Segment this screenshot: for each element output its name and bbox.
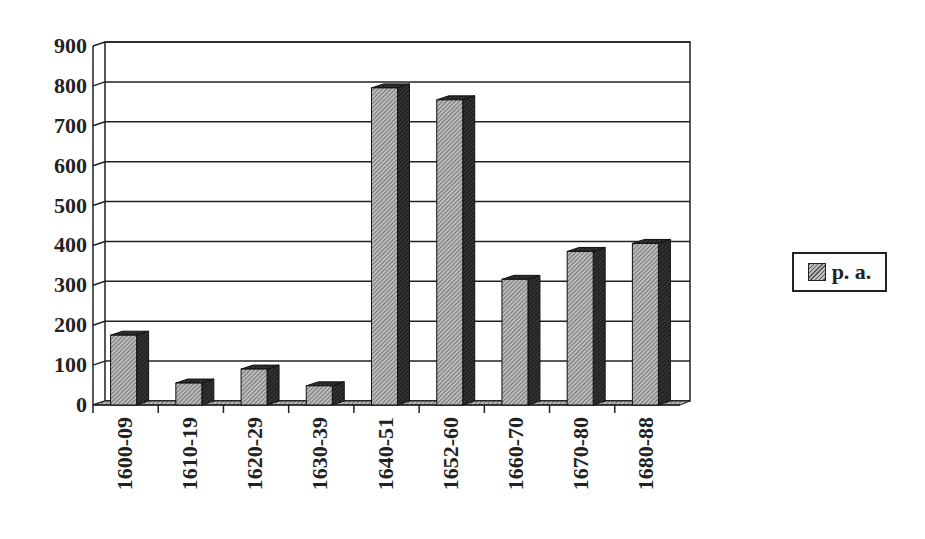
bar xyxy=(111,331,149,405)
y-tick-label: 400 xyxy=(54,232,87,257)
bars xyxy=(111,84,671,405)
bar xyxy=(241,365,279,405)
legend: p. a. xyxy=(792,252,887,292)
y-tick-label: 900 xyxy=(54,33,87,58)
bar xyxy=(567,247,605,405)
legend-swatch-icon xyxy=(808,263,826,281)
y-tick-label: 100 xyxy=(54,352,87,377)
x-tick-label: 1670-80 xyxy=(568,417,593,490)
y-tick-label: 800 xyxy=(54,73,87,98)
y-tick-label: 700 xyxy=(54,113,87,138)
bar xyxy=(502,275,540,405)
x-tick-label: 1610-19 xyxy=(177,417,202,490)
bar xyxy=(176,379,214,405)
y-tick-label: 0 xyxy=(76,392,87,417)
y-tick-label: 200 xyxy=(54,312,87,337)
x-tick-label: 1680-88 xyxy=(633,417,658,490)
bar-chart: 01002003004005006007008009001600-091610-… xyxy=(0,0,925,539)
x-tick-label: 1652-60 xyxy=(438,417,463,490)
y-tick-label: 300 xyxy=(54,272,87,297)
bar xyxy=(437,96,475,405)
legend-label: p. a. xyxy=(832,259,872,285)
x-tick-label: 1600-09 xyxy=(112,417,137,490)
x-tick-label: 1640-51 xyxy=(373,417,398,490)
x-tick-label: 1620-29 xyxy=(242,417,267,490)
x-tick-label: 1660-70 xyxy=(503,417,528,490)
y-tick-label: 600 xyxy=(54,153,87,178)
x-tick-label: 1630-39 xyxy=(307,417,332,490)
bar xyxy=(632,239,670,405)
bar xyxy=(372,84,410,405)
y-tick-label: 500 xyxy=(54,193,87,218)
bar xyxy=(306,382,344,405)
